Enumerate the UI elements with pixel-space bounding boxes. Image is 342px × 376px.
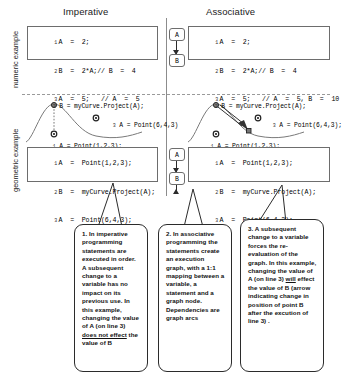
curve-caption-line2-associative: 2 B = myCurve.Project(A);	[200, 96, 306, 117]
row-label-numeric-example: numeric example	[11, 31, 20, 88]
line-text: A = 2;	[59, 39, 90, 46]
code-line: 1A = 2;	[31, 29, 154, 58]
point-a-new-center	[95, 117, 97, 119]
caption-text: A = Point(6,4,3)	[119, 122, 178, 129]
line-text: B = 2*A;// B = 4	[59, 68, 136, 75]
point-b-new-marker	[247, 129, 252, 134]
code-line: 1A = 2;	[192, 29, 326, 58]
curve-caption-line3-associative: 3 A = Point(6,4,3);	[258, 115, 342, 136]
graph-node-b-geometric: B	[169, 172, 185, 185]
column-heading-imperative: Imperative	[63, 6, 108, 17]
curve-caption-line2-imperative: 2 B = myCurve.Project(A);	[38, 96, 144, 117]
callout-text-2: 2. In associative programming the statem…	[166, 230, 225, 322]
callout-tail-3	[256, 183, 294, 223]
callout-tail-1	[96, 183, 132, 227]
point-a-center	[53, 133, 55, 135]
graph-node-b-numeric: B	[169, 54, 185, 67]
line-number: 3	[113, 123, 116, 129]
callout-tail-2	[181, 189, 211, 227]
callout-text-3: 3. A subsequent change to a variable for…	[248, 225, 317, 326]
code-block-numeric-associative: 1A = 2; 2B = 2*A;// B = 4 3A = 5; // A =…	[188, 26, 330, 60]
caption-text: A = Point(6,4,3);	[279, 122, 342, 129]
graph-node-a-geometric: A	[169, 148, 185, 161]
code-line: 1A = Point(1,2,3);	[192, 150, 326, 179]
line-text: A = Point(1,2,3);	[220, 160, 293, 167]
code-line: 1A = Point(1,2,3);	[31, 150, 154, 179]
callout-box-1: 1. In imperative programming statements …	[74, 224, 148, 372]
caption-text: B = myCurve.Project(A);	[59, 103, 144, 110]
code-line: 2B = myCurve.Project(A);	[31, 179, 154, 208]
line-number: 2	[215, 104, 218, 110]
line-text: B = 2*A;// B = 4	[220, 68, 297, 75]
code-block-geometric-imperative: 1A = Point(1,2,3); 2B = myCurve.Project(…	[27, 147, 158, 182]
callout-box-3: 3. A subsequent change to a variable for…	[240, 219, 324, 372]
callout-box-2: 2. In associative programming the statem…	[158, 224, 232, 372]
line-text: A = 2;	[220, 39, 251, 46]
vertical-divider	[166, 18, 167, 196]
line-number: 2	[53, 104, 56, 110]
column-heading-associative: Associative	[206, 6, 255, 17]
curve-caption-line3-imperative: 3 A = Point(6,4,3)	[98, 115, 178, 136]
caption-text: B = myCurve.Project(A);	[221, 103, 306, 110]
callout-text-1: 1. In imperative programming statements …	[82, 230, 141, 348]
code-block-geometric-associative: 1A = Point(1,2,3); 2B = myCurve.Project(…	[188, 147, 330, 182]
arrow-head-up-icon	[173, 189, 179, 194]
graph-node-a-numeric: A	[169, 28, 185, 41]
row-label-geometric-example: geometric example	[11, 129, 20, 192]
line-number: 3	[273, 123, 276, 129]
code-line: 2B = 2*A;// B = 4	[192, 58, 326, 87]
line-text: A = Point(1,2,3);	[59, 160, 132, 167]
code-block-numeric-imperative: 1A = 2; 2B = 2*A;// B = 4 3A = 5; // A =…	[27, 26, 158, 60]
point-a-center	[215, 133, 217, 135]
code-line: 2B = 2*A;// B = 4	[31, 58, 154, 87]
